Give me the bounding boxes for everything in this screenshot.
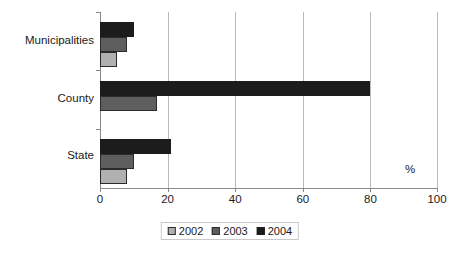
xtick-20 bbox=[168, 188, 169, 192]
bar-group-municipalities bbox=[100, 22, 438, 70]
category-label-municipalities: Municipalities bbox=[25, 34, 94, 46]
bar-county-2003 bbox=[100, 96, 157, 111]
category-label-county: County bbox=[58, 92, 94, 104]
legend-swatch-2003-icon bbox=[212, 227, 220, 235]
bar-chart: Municipalities County State bbox=[0, 0, 460, 259]
xtick-100 bbox=[437, 188, 438, 192]
legend-label-2003: 2003 bbox=[223, 225, 247, 237]
bar-state-2003 bbox=[100, 154, 134, 169]
ytick-1 bbox=[96, 70, 100, 71]
xtick-0 bbox=[100, 188, 101, 192]
category-label-state: State bbox=[67, 149, 94, 161]
bar-group-county bbox=[100, 81, 438, 129]
xtick-60 bbox=[303, 188, 304, 192]
chart-legend: 2002 2003 2004 bbox=[161, 222, 299, 240]
bar-state-2004 bbox=[100, 139, 171, 154]
legend-label-2004: 2004 bbox=[268, 225, 292, 237]
bar-municipalities-2002 bbox=[100, 52, 117, 67]
xtick-label-40: 40 bbox=[215, 193, 255, 205]
xtick-label-20: 20 bbox=[148, 193, 188, 205]
legend-item-2003: 2003 bbox=[212, 225, 247, 237]
xtick-label-60: 60 bbox=[283, 193, 323, 205]
ytick-2 bbox=[96, 129, 100, 130]
xtick-40 bbox=[235, 188, 236, 192]
bar-municipalities-2004 bbox=[100, 22, 134, 37]
bar-municipalities-2003 bbox=[100, 37, 127, 52]
bar-county-2004 bbox=[100, 81, 370, 96]
x-axis-unit-label: % bbox=[405, 163, 415, 175]
xtick-label-100: 100 bbox=[417, 193, 457, 205]
legend-item-2002: 2002 bbox=[168, 225, 203, 237]
bar-group-state bbox=[100, 139, 438, 187]
plot-area bbox=[100, 12, 438, 188]
xtick-label-80: 80 bbox=[350, 193, 390, 205]
legend-item-2004: 2004 bbox=[257, 225, 292, 237]
xtick-80 bbox=[370, 188, 371, 192]
ytick-top bbox=[96, 12, 100, 13]
legend-swatch-2004-icon bbox=[257, 227, 265, 235]
xtick-label-0: 0 bbox=[80, 193, 120, 205]
legend-swatch-2002-icon bbox=[168, 227, 176, 235]
x-axis-line bbox=[100, 188, 438, 189]
bar-state-2002 bbox=[100, 169, 127, 184]
legend-label-2002: 2002 bbox=[179, 225, 203, 237]
